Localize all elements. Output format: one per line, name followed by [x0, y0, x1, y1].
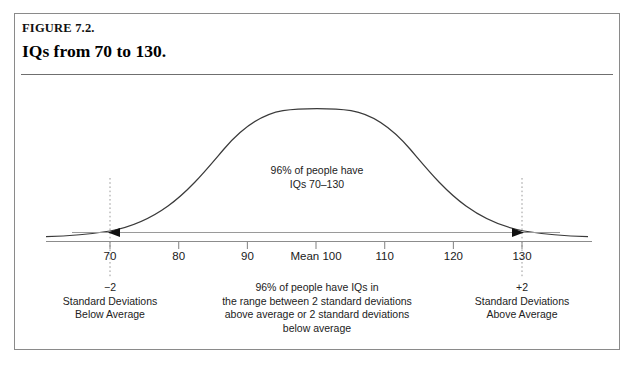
caption-divider: [21, 74, 613, 75]
axis-label-110: 110: [376, 250, 394, 262]
left-sd-annotation: −2 Standard Deviations Below Average: [63, 281, 158, 322]
curve-annotation-line-1: 96% of people have: [271, 164, 364, 178]
figure-caption-block: FIGURE 7.2. IQs from 70 to 130.: [22, 20, 602, 63]
right-sd-annotation: +2 Standard Deviations Above Average: [475, 281, 570, 322]
bottom-annotation-line-2: the range between 2 standard deviations: [222, 295, 412, 309]
curve-annotation-line-2: IQs 70–130: [271, 178, 364, 192]
left-sd-line-2: Standard Deviations: [63, 295, 158, 309]
figure-number-label: FIGURE 7.2.: [22, 20, 602, 36]
bottom-annotation-line-3: above average or 2 standard deviations: [222, 308, 412, 322]
figure-container: FIGURE 7.2. IQs from 70 to 130. 70 80 90: [0, 0, 635, 366]
left-sd-line-1: −2: [63, 281, 158, 295]
axis-label-70: 70: [104, 250, 117, 262]
bottom-annotation-line-4: below average: [222, 322, 412, 336]
left-sd-line-3: Below Average: [63, 308, 158, 322]
bottom-annotation: 96% of people have IQs in the range betw…: [222, 281, 412, 335]
figure-title: IQs from 70 to 130.: [22, 39, 602, 63]
curve-annotation: 96% of people have IQs 70–130: [271, 164, 364, 191]
axis-label-90: 90: [241, 250, 254, 262]
bottom-annotation-line-1: 96% of people have IQs in: [222, 281, 412, 295]
axis-label-80: 80: [172, 250, 185, 262]
right-sd-line-2: Standard Deviations: [475, 295, 570, 309]
right-sd-line-3: Above Average: [475, 308, 570, 322]
axis-label-120: 120: [444, 250, 463, 262]
axis-label-mean-100: Mean 100: [290, 250, 341, 262]
axis-label-130: 130: [512, 250, 531, 262]
right-sd-line-1: +2: [475, 281, 570, 295]
